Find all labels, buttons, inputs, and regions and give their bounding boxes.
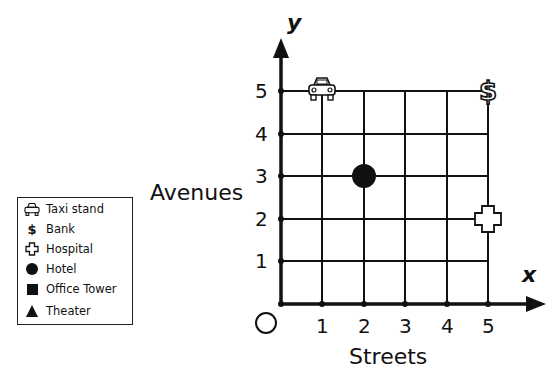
legend: Taxi stand $ Bank Hospital Hotel Office … — [17, 197, 133, 325]
x-variable-label: x — [522, 262, 536, 287]
y-axis-arrow-icon — [273, 38, 289, 58]
x-tick-5: 5 — [482, 314, 495, 338]
legend-label: Hospital — [46, 242, 93, 256]
legend-label: Taxi stand — [46, 202, 104, 216]
y-variable-label: y — [287, 10, 301, 35]
x-tick-3: 3 — [399, 314, 412, 338]
square-icon — [18, 284, 46, 295]
dollar-icon: $ — [18, 222, 46, 237]
legend-item-taxi: Taxi stand — [18, 199, 104, 219]
hotel-marker — [352, 164, 376, 188]
legend-item-hotel: Hotel — [18, 259, 76, 279]
tick-dots — [278, 88, 491, 307]
legend-label: Office Tower — [46, 282, 117, 296]
circle-icon — [18, 263, 46, 275]
x-tick-1: 1 — [316, 314, 329, 338]
legend-label: Bank — [46, 222, 75, 236]
x-tick-2: 2 — [358, 314, 371, 338]
y-tick-5: 5 — [255, 79, 268, 103]
y-tick-4: 4 — [255, 122, 268, 146]
x-axis-title: Streets — [349, 344, 427, 369]
legend-item-office-tower: Office Tower — [18, 279, 117, 299]
x-axis-arrow-icon — [526, 296, 546, 312]
x-tick-4: 4 — [441, 314, 454, 338]
grid-lines — [281, 91, 488, 304]
legend-label: Theater — [46, 304, 91, 318]
hospital-marker — [475, 206, 501, 232]
y-tick-2: 2 — [255, 207, 268, 231]
y-tick-1: 1 — [255, 249, 268, 273]
legend-item-theater: Theater — [18, 301, 91, 321]
cross-icon — [18, 242, 46, 256]
triangle-icon — [18, 305, 46, 317]
taxi-icon — [18, 203, 46, 216]
legend-item-bank: $ Bank — [18, 219, 75, 239]
bank-marker: $ — [479, 76, 497, 106]
legend-label: Hotel — [46, 262, 76, 276]
legend-item-hospital: Hospital — [18, 239, 93, 259]
y-tick-3: 3 — [255, 164, 268, 188]
origin-marker — [256, 313, 276, 333]
y-axis-title: Avenues — [150, 180, 243, 205]
